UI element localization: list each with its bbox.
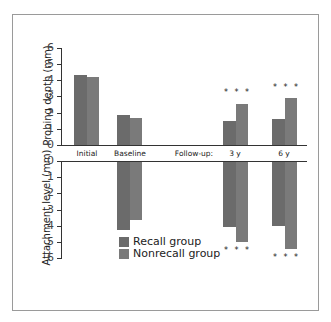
attachment-bar-nonrecall: [236, 162, 249, 242]
y-tick: [57, 177, 62, 178]
legend-nonrecall: Nonrecall group: [119, 247, 220, 260]
x-label-6y: 6 y: [274, 149, 294, 158]
y-tick: [57, 210, 62, 211]
probing-bar-recall: [117, 115, 130, 145]
top-x-axis: [57, 145, 307, 146]
probing-bar-nonrecall: [236, 104, 249, 145]
y-tick: [57, 129, 62, 130]
y-tick-label: 2: [40, 107, 54, 118]
significance-3y-bottom: * * *: [224, 246, 251, 255]
y-tick-label: 3: [40, 204, 54, 215]
y-tick-label: 0: [40, 155, 54, 166]
y-tick: [57, 193, 62, 194]
y-tick: [57, 258, 62, 259]
attachment-bar-recall: [272, 162, 285, 226]
y-tick-label: 3: [40, 90, 54, 101]
probing-bar-nonrecall: [285, 98, 298, 145]
probing-bar-recall: [272, 119, 285, 145]
legend-label-nonrecall: Nonrecall group: [133, 247, 220, 260]
y-tick-label: 0: [40, 139, 54, 150]
y-tick: [57, 64, 62, 65]
x-label-3y: 3 y: [225, 149, 245, 158]
attachment-bar-recall: [117, 162, 130, 230]
probing-bar-recall: [74, 75, 87, 145]
y-tick-label: 2: [40, 187, 54, 198]
significance-3y-top: * * *: [224, 88, 251, 97]
legend-swatch-nonrecall: [119, 249, 129, 259]
bottom-x-axis: [57, 161, 307, 162]
y-tick-label: 4: [40, 74, 54, 85]
y-tick: [57, 113, 62, 114]
legend-swatch-recall: [119, 237, 129, 247]
probing-bar-recall: [223, 121, 236, 145]
y-tick-label: 4: [40, 220, 54, 231]
x-label-initial: Initial: [74, 149, 100, 158]
attachment-bar-nonrecall: [285, 162, 298, 249]
probing-bar-nonrecall: [130, 118, 143, 145]
y-tick-label: 6: [40, 252, 54, 263]
probing-bar-nonrecall: [87, 77, 100, 145]
y-tick: [57, 145, 62, 146]
significance-6y-top: * * *: [273, 83, 300, 92]
attachment-bar-recall: [223, 162, 236, 227]
y-tick: [57, 226, 62, 227]
attachment-bar-nonrecall: [130, 162, 143, 220]
y-tick-label: 1: [40, 171, 54, 182]
significance-6y-bottom: * * *: [273, 253, 300, 262]
y-tick-label: 5: [40, 58, 54, 69]
x-label-baseline: Baseline: [112, 149, 148, 158]
y-tick-label: 6: [40, 42, 54, 53]
y-tick: [57, 96, 62, 97]
y-tick: [57, 242, 62, 243]
y-tick: [57, 161, 62, 162]
x-label-followup: Follow-up:: [174, 149, 214, 158]
y-tick: [57, 80, 62, 81]
y-tick-label: 1: [40, 123, 54, 134]
y-tick-label: 5: [40, 236, 54, 247]
y-tick: [57, 48, 62, 49]
